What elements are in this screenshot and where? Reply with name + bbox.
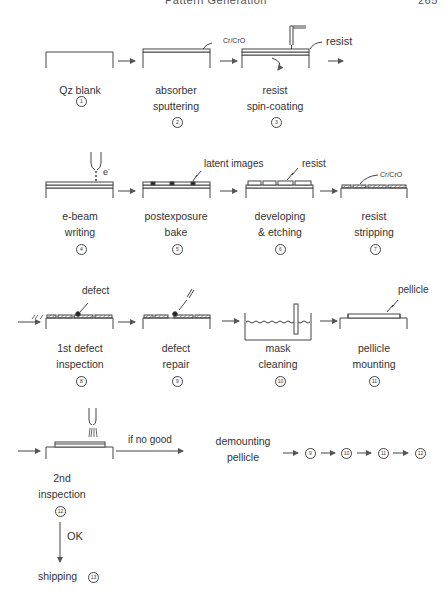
second-inspection-drawing — [46, 408, 113, 459]
step-9-label: defect repair — [136, 340, 216, 372]
latent-images-annotation: latent images — [204, 158, 263, 169]
mask-cleaning-drawing — [245, 304, 311, 340]
step-10-number: 10 — [275, 376, 286, 387]
electron-annotation: e- — [103, 166, 110, 177]
step-5-label: postexposure bake — [136, 208, 216, 240]
resist-spin-drawing — [242, 26, 322, 70]
step-6-label: developing & etching — [240, 208, 320, 240]
step-2-label: absorber sputtering — [136, 82, 216, 114]
step-11-number: 11 — [369, 376, 380, 387]
defect-annotation: defect — [82, 285, 109, 296]
demounting-pellicle-label: demounting pellicle — [213, 433, 273, 465]
step-1-number: 1 — [76, 96, 87, 107]
resist-stripping-drawing — [341, 175, 407, 198]
step-8-number: 8 — [76, 376, 87, 387]
post-exposure-bake-drawing — [143, 171, 210, 198]
step-7-number: 7 — [370, 244, 381, 255]
cr-cro-annotation: Cr/CrO — [223, 37, 245, 44]
if-no-good-annotation: if no good — [128, 434, 172, 445]
step-2-number: 2 — [172, 117, 183, 128]
developing-etching-drawing — [246, 168, 313, 198]
step-3-label: resist spin-coating — [235, 82, 315, 114]
step-12-number: 12 — [55, 506, 66, 517]
loop-step-11: 11 — [378, 448, 389, 459]
step-7-label: resist stripping — [334, 208, 414, 240]
resist-annotation: resist — [326, 35, 352, 47]
step-13-number: 13 — [88, 572, 99, 583]
step-4-label: e-beam writing — [40, 208, 120, 240]
step-3-number: 3 — [271, 117, 282, 128]
step-8-label: 1st defect inspection — [40, 340, 120, 372]
step-10-label: mask cleaning — [238, 340, 318, 372]
pellicle-mounting-drawing — [340, 300, 407, 329]
step-13-label: shipping — [38, 568, 77, 584]
defect-repair-drawing — [143, 289, 210, 329]
step-11-label: pellicle mounting — [334, 340, 414, 372]
loop-step-10: 10 — [341, 448, 352, 459]
first-defect-inspection-drawing — [32, 303, 113, 329]
ok-annotation: OK — [67, 530, 83, 542]
qz-blank-drawing — [46, 52, 113, 68]
loop-step-9: 9 — [305, 448, 316, 459]
absorber-drawing — [143, 43, 212, 68]
step-12-label: 2nd inspection — [22, 470, 102, 502]
loop-step-12: 12 — [415, 448, 426, 459]
cr-cro-annotation-2: Cr/CrO — [380, 171, 402, 178]
step-6-number: 6 — [275, 244, 286, 255]
step-9-number: 9 — [172, 376, 183, 387]
step-5-number: 5 — [172, 244, 183, 255]
step-4-number: 4 — [76, 244, 87, 255]
pellicle-annotation: pellicle — [398, 284, 429, 295]
resist-annotation-2: resist — [302, 158, 326, 169]
